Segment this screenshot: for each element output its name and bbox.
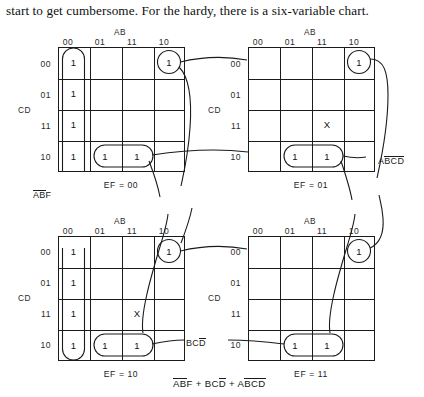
kmap-cell[interactable] [311,47,343,78]
col-header-11: 11 [123,37,141,47]
eq-plus-2: + [226,378,237,389]
kmap-cell[interactable]: 1 [58,236,89,267]
kmap-cell[interactable] [248,267,279,298]
kmap-cell[interactable] [343,78,375,109]
kmap-cell[interactable] [311,236,343,267]
kmap-cell[interactable]: 1 [279,329,311,361]
col-header-10: 10 [345,226,363,236]
kmap-cell[interactable] [89,78,121,109]
kmap-cell[interactable] [153,329,185,361]
kmap-cell[interactable] [89,47,121,78]
kmap-cell[interactable]: 1 [58,298,89,329]
row-header-01: 01 [223,278,241,288]
kmap-cell[interactable] [248,140,279,172]
eq-plus-1: + [193,378,205,389]
row-header-11: 11 [33,309,51,319]
row-header-01: 01 [223,90,241,100]
kmap-cell[interactable] [311,78,343,109]
kmap-cell[interactable]: 1 [121,329,153,361]
kmap-cell[interactable]: 1 [343,47,375,78]
kmap-cell[interactable] [121,47,153,78]
kmap-cell[interactable] [248,78,279,109]
kmap-cell[interactable] [248,109,279,140]
kmap-cell[interactable]: 1 [153,236,185,267]
kmap-cell[interactable] [343,109,375,140]
kmap-footer-label: EF = 00 [85,180,157,190]
kmap-cell[interactable] [153,140,185,172]
kmap-cell[interactable] [279,109,311,140]
kmap-cell[interactable]: 1 [279,140,311,172]
kmap-cell[interactable] [121,78,153,109]
ab-axis-title: AB [105,27,135,37]
kmap-cell[interactable] [121,236,153,267]
eq-term2-bar: D [219,378,226,389]
kmap-footer-label: EF = 11 [275,369,347,379]
ab-axis-title: AB [295,216,325,226]
kmap-cell[interactable] [343,298,375,329]
col-header-10: 10 [155,226,173,236]
overbar-span: D [199,338,206,348]
kmap-cell[interactable]: 1 [121,140,153,172]
kmap-cell[interactable] [248,329,279,361]
kmap-cell[interactable] [279,267,311,298]
row-header-11: 11 [33,121,51,131]
kmap-cell[interactable] [279,298,311,329]
kmap-cell[interactable] [121,267,153,298]
row-header-10: 10 [223,152,241,162]
kmap-cell[interactable] [89,267,121,298]
kmap-cell[interactable] [279,47,311,78]
col-header-00: 00 [249,37,267,47]
kmap-cell[interactable]: 1 [58,140,89,172]
kmap-cell[interactable]: 1 [58,47,89,78]
kmap-cell[interactable]: X [121,298,153,329]
cd-axis-title: CD [18,293,31,303]
kmap-cell[interactable]: 1 [89,140,121,172]
term-label-bcd: BCD [186,338,206,348]
kmap-cell[interactable] [343,267,375,298]
term-pre: BC [186,338,199,348]
eq-term3-pre: A [237,378,244,389]
row-header-10: 10 [223,340,241,350]
kmap-cell[interactable] [248,236,279,267]
row-header-10: 10 [33,152,51,162]
kmap-cell[interactable] [279,236,311,267]
kmap-cell[interactable] [311,267,343,298]
col-header-00: 00 [249,226,267,236]
kmap-cell[interactable] [343,329,375,361]
kmap-cell[interactable]: 1 [89,329,121,361]
kmap-cell[interactable]: 1 [153,47,185,78]
kmap-cell[interactable]: 1 [58,267,89,298]
row-header-11: 11 [223,121,241,131]
kmap-cell[interactable]: 1 [58,329,89,361]
kmap-cell[interactable] [121,109,153,140]
kmap-cell[interactable] [153,298,185,329]
ab-axis-title: AB [295,27,325,37]
kmap-cell[interactable] [89,298,121,329]
kmap-cell[interactable]: 1 [58,109,89,140]
overbar-span: AB [33,190,46,200]
kmap-cell[interactable] [248,298,279,329]
kmap-cell[interactable]: 1 [58,78,89,109]
kmap-cell[interactable]: X [311,109,343,140]
kmap-cell[interactable] [89,236,121,267]
kmap-cell[interactable] [153,109,185,140]
kmap-cell[interactable] [153,78,185,109]
kmap-cell[interactable]: 1 [311,140,343,172]
row-header-10: 10 [33,340,51,350]
kmap-cell[interactable] [89,109,121,140]
kmap-footer-label: EF = 10 [85,369,157,379]
kmap-cell[interactable] [343,140,375,172]
kmap-cell[interactable] [248,47,279,78]
row-header-00: 00 [33,59,51,69]
row-header-01: 01 [33,278,51,288]
cd-axis-title: CD [18,105,31,115]
kmap-footer-label: EF = 01 [275,180,347,190]
kmap-cell[interactable] [153,267,185,298]
cd-axis-title: CD [208,105,221,115]
kmap-cell[interactable] [279,78,311,109]
kmap-cell[interactable]: 1 [311,329,343,361]
kmap-cell[interactable] [311,298,343,329]
kmap-cell[interactable]: 1 [343,236,375,267]
cd-axis-title: CD [208,293,221,303]
eq-term3-bar: BCD [244,378,265,389]
